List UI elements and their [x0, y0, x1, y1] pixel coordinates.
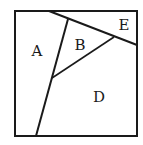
partition-diagram: A B E D: [0, 0, 143, 145]
region-label-b: B: [74, 36, 85, 54]
region-label-a: A: [31, 42, 43, 60]
region-label-d: D: [93, 88, 105, 106]
region-label-e: E: [119, 16, 130, 34]
